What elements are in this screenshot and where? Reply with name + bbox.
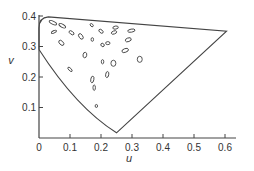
x-tick-label: 0.2 [94, 142, 108, 153]
y-tick-label: 0.3 [22, 41, 36, 52]
ellipse [111, 30, 117, 35]
ellipse [105, 71, 109, 78]
ellipse [98, 28, 104, 34]
ellipse [101, 60, 103, 64]
macadam-ellipses [49, 20, 143, 108]
y-tick-label: 0.1 [22, 102, 36, 113]
y-axis-label: v [8, 54, 15, 66]
x-ticks: 00.10.20.30.40.50.6 [36, 134, 232, 153]
y-tick-label: 0.2 [22, 72, 36, 83]
gamut-boundary [39, 17, 227, 133]
ellipse [67, 67, 73, 73]
x-axis-label: u [126, 152, 132, 164]
ellipse [121, 48, 129, 54]
ellipse [51, 30, 57, 35]
ellipse [127, 28, 135, 32]
ellipse [83, 52, 88, 58]
ellipse [111, 60, 116, 66]
ellipse [49, 20, 58, 26]
ellipse [91, 38, 93, 42]
x-tick-label: 0.5 [187, 142, 201, 153]
y-tick-label: 0.4 [22, 11, 36, 22]
x-tick-label: 0.6 [218, 142, 232, 153]
ellipse [68, 30, 74, 36]
y-ticks: 0.10.20.30.4 [22, 11, 43, 114]
ellipse [58, 23, 66, 29]
x-tick-label: 0 [36, 142, 42, 153]
ellipse [125, 37, 132, 43]
ellipse [78, 33, 85, 40]
ellipse [90, 76, 94, 83]
ellipse [58, 39, 65, 46]
ellipse [93, 85, 95, 90]
ellipse [100, 43, 105, 48]
x-tick-label: 0.1 [63, 142, 77, 153]
chart: 00.10.20.30.40.50.6 0.10.20.30.4 u v [0, 0, 254, 171]
x-tick-label: 0.4 [156, 142, 170, 153]
ellipse [113, 26, 119, 30]
ellipse [106, 42, 110, 45]
axes [39, 15, 236, 138]
ellipse [95, 104, 97, 107]
ellipse [137, 56, 142, 62]
ellipse [90, 23, 94, 27]
